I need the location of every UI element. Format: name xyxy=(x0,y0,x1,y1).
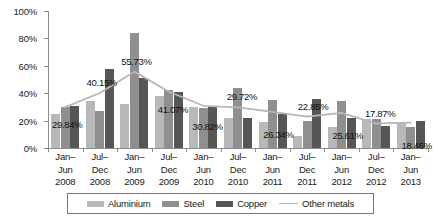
x-category-label-line: Jun xyxy=(124,164,144,177)
bar-group xyxy=(359,11,394,148)
x-axis-category-labels: Jan–Jun2008Jul–Dec2008Jan–Jun2009Jul–Dec… xyxy=(48,151,428,193)
bar-steel xyxy=(337,101,346,148)
bar-copper xyxy=(139,78,148,148)
bar-steel xyxy=(372,119,381,148)
legend-label: Aluminium xyxy=(108,198,151,209)
y-tick-label: 100% xyxy=(14,6,38,17)
bar-aluminium xyxy=(224,118,233,148)
x-category-label-line: Jul– xyxy=(90,151,110,164)
x-category-label-line: Jan– xyxy=(55,151,75,164)
x-category-label-line: Dec xyxy=(90,164,110,177)
x-category-label-line: Jun xyxy=(331,164,351,177)
plot-area: 0%20%40%60%80%100% 29.84%40.15%55.73%41.… xyxy=(48,11,428,148)
data-label: 29.84% xyxy=(52,119,82,130)
bar-steel xyxy=(303,121,312,148)
x-category-label-line: Jan– xyxy=(193,151,213,164)
x-category-label-line: Jul– xyxy=(297,151,317,164)
x-category-label-line: 2010 xyxy=(228,176,248,189)
x-category-label: Jan–Jun2012 xyxy=(331,151,351,189)
x-category-label-line: Dec xyxy=(159,164,179,177)
x-category-label: Jul–Dec2012 xyxy=(366,151,386,189)
bar-group xyxy=(393,11,428,148)
x-category-label-line: Dec xyxy=(228,164,248,177)
bar-group xyxy=(221,11,256,148)
x-category-label-line: Jun xyxy=(401,164,421,177)
legend-swatch-aluminium-icon xyxy=(87,201,104,207)
x-category-label-line: Jan– xyxy=(331,151,351,164)
x-category-label: Jul–Dec2010 xyxy=(228,151,248,189)
bar-aluminium xyxy=(362,119,371,148)
bar-copper xyxy=(243,118,252,148)
data-label: 55.73% xyxy=(121,55,151,66)
chart-legend: AluminiumSteelCopperOther metals xyxy=(67,193,374,214)
data-label: 30.82% xyxy=(192,120,222,131)
bar-aluminium xyxy=(120,104,129,148)
y-tick-label: 80% xyxy=(19,33,37,44)
x-category-label-line: Jan– xyxy=(124,151,144,164)
x-category-label-line: 2011 xyxy=(297,176,317,189)
x-category-label-line: Jul– xyxy=(159,151,179,164)
x-category-label: Jul–Dec2009 xyxy=(159,151,179,189)
bar-steel xyxy=(164,90,173,148)
x-category-label: Jan–Jun2013 xyxy=(401,151,421,189)
bar-aluminium xyxy=(86,101,95,148)
legend-swatch-copper-icon xyxy=(216,201,233,207)
x-category-label: Jul–Dec2011 xyxy=(297,151,317,189)
x-category-label-line: Jun xyxy=(263,164,283,177)
legend-label: Steel xyxy=(183,198,204,209)
y-tick-label: 60% xyxy=(19,60,37,71)
x-category-label-line: 2013 xyxy=(401,176,421,189)
data-label: 29.72% xyxy=(227,91,257,102)
x-category-label-line: 2010 xyxy=(193,176,213,189)
bar-copper xyxy=(381,126,390,148)
bar-steel xyxy=(95,111,104,148)
bar-group xyxy=(152,11,187,148)
bar-steel xyxy=(268,100,277,148)
data-label: 41.07% xyxy=(158,103,188,114)
x-category-label: Jan–Jun2009 xyxy=(124,151,144,189)
legend-item-copper[interactable]: Copper xyxy=(216,198,267,209)
y-tick-label: 0% xyxy=(24,143,37,154)
x-category-label-line: Jun xyxy=(193,164,213,177)
x-category-label-line: Jan– xyxy=(401,151,421,164)
x-category-label: Jan–Jun2011 xyxy=(263,151,283,189)
x-category-label: Jan–Jun2008 xyxy=(55,151,75,189)
x-category-label-line: 2009 xyxy=(124,176,144,189)
legend-item-aluminium[interactable]: Aluminium xyxy=(87,198,151,209)
x-category-label-line: 2012 xyxy=(331,176,351,189)
bar-steel xyxy=(130,33,139,148)
x-category-label-line: 2008 xyxy=(55,176,75,189)
bar-aluminium xyxy=(293,136,302,148)
legend-item-steel[interactable]: Steel xyxy=(162,198,204,209)
bar-line-chart: 0%20%40%60%80%100% 29.84%40.15%55.73%41.… xyxy=(0,0,436,219)
x-axis-line xyxy=(48,148,428,149)
x-category-label-line: Dec xyxy=(297,164,317,177)
y-tick-label: 40% xyxy=(19,88,37,99)
x-category-label-line: Dec xyxy=(366,164,386,177)
data-label: 25.61% xyxy=(332,129,362,140)
x-category-label-line: 2008 xyxy=(90,176,110,189)
data-label: 22.85% xyxy=(298,100,328,111)
legend-item-line[interactable]: Other metals xyxy=(279,198,354,209)
x-category-label: Jul–Dec2008 xyxy=(90,151,110,189)
legend-swatch-line-icon xyxy=(279,203,298,204)
x-category-label-line: 2012 xyxy=(366,176,386,189)
data-label: 17.87% xyxy=(365,107,395,118)
x-category-label-line: Jan– xyxy=(263,151,283,164)
x-category-label-line: 2009 xyxy=(159,176,179,189)
legend-label: Copper xyxy=(237,198,267,209)
x-category-label-line: Jul– xyxy=(228,151,248,164)
x-category-label: Jan–Jun2010 xyxy=(193,151,213,189)
bar-copper xyxy=(174,92,183,148)
legend-label: Other metals xyxy=(302,198,354,209)
bar-group xyxy=(324,11,359,148)
bar-group xyxy=(290,11,325,148)
bar-group xyxy=(117,11,152,148)
x-category-label-line: Jul– xyxy=(366,151,386,164)
x-category-label-line: 2011 xyxy=(263,176,283,189)
data-label: 18.46% xyxy=(402,139,432,150)
data-label: 26.34% xyxy=(263,128,293,139)
data-label: 40.15% xyxy=(87,76,117,87)
y-tick-label: 20% xyxy=(19,115,37,126)
legend-swatch-steel-icon xyxy=(162,201,179,207)
